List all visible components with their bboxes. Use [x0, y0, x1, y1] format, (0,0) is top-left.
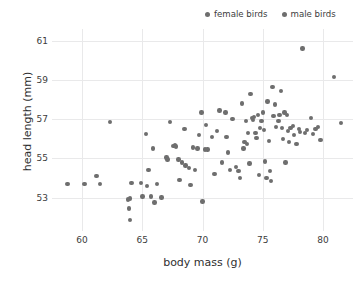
- data-point: [238, 176, 242, 180]
- data-point: [210, 135, 214, 139]
- data-point: [262, 128, 266, 132]
- data-point: [127, 206, 131, 210]
- data-point: [274, 125, 278, 129]
- data-point: [224, 135, 228, 139]
- gridline-vertical: [82, 29, 83, 231]
- data-point: [248, 92, 252, 96]
- chart-legend: female birdsmale birds: [205, 7, 357, 21]
- data-point: [215, 129, 219, 133]
- data-point: [246, 131, 250, 135]
- data-point: [257, 173, 261, 177]
- data-point: [108, 120, 112, 124]
- x-axis-title: body mass (g): [52, 256, 353, 269]
- data-point: [268, 169, 272, 173]
- data-point: [65, 182, 69, 186]
- data-point: [82, 182, 86, 186]
- data-point: [94, 174, 98, 178]
- data-point: [339, 121, 343, 125]
- data-point: [285, 113, 289, 117]
- data-point: [145, 184, 149, 188]
- legend-item-label: female birds: [214, 10, 268, 19]
- data-point: [193, 168, 197, 172]
- data-point: [316, 125, 320, 129]
- gridline-vertical: [142, 29, 143, 231]
- x-axis-tick-label: 75: [248, 236, 278, 245]
- data-point: [199, 110, 203, 114]
- data-point: [212, 172, 216, 176]
- data-point: [283, 160, 287, 164]
- data-point: [265, 99, 269, 103]
- data-point: [129, 181, 133, 185]
- legend-marker-dot-icon: [205, 12, 210, 17]
- data-point: [264, 176, 268, 180]
- data-point: [256, 113, 260, 117]
- data-point: [311, 132, 315, 136]
- data-point: [128, 218, 132, 222]
- data-point: [191, 145, 195, 149]
- data-point: [144, 132, 148, 136]
- legend-item[interactable]: male birds: [282, 10, 336, 19]
- data-point: [155, 182, 159, 186]
- data-point: [151, 146, 155, 150]
- data-point: [259, 119, 263, 123]
- data-point: [245, 142, 249, 146]
- x-axis-tick-label: 80: [308, 236, 338, 245]
- data-point: [300, 46, 304, 50]
- data-point: [168, 120, 172, 124]
- x-axis-tick-labels: 6065707580: [52, 236, 353, 250]
- data-point: [205, 147, 209, 151]
- data-point: [287, 140, 291, 144]
- data-point: [165, 157, 169, 161]
- data-point: [291, 124, 295, 128]
- data-point: [236, 169, 240, 173]
- data-point: [140, 194, 144, 198]
- data-point: [149, 194, 153, 198]
- data-point: [279, 89, 283, 93]
- gridline-vertical: [323, 29, 324, 231]
- x-axis-tick-label: 65: [127, 236, 157, 245]
- data-point: [230, 117, 234, 121]
- data-point: [253, 131, 257, 135]
- data-point: [98, 182, 102, 186]
- legend-marker-dot-icon: [282, 12, 287, 17]
- data-point: [267, 139, 271, 143]
- data-point: [280, 126, 284, 130]
- data-point: [159, 195, 163, 199]
- data-point: [220, 160, 224, 164]
- data-point: [128, 196, 132, 200]
- data-point: [277, 113, 281, 117]
- scatter-chart-figure: female birdsmale birds 5355575961 606570…: [0, 0, 362, 287]
- data-point: [269, 179, 273, 183]
- data-point: [292, 133, 296, 137]
- data-point: [263, 159, 267, 163]
- data-point: [247, 161, 251, 165]
- data-point: [332, 75, 336, 79]
- data-point: [273, 102, 277, 106]
- data-point: [204, 123, 208, 127]
- data-point: [174, 144, 178, 148]
- data-point: [228, 168, 232, 172]
- legend-item[interactable]: female birds: [205, 10, 268, 19]
- x-axis-tick-label: 60: [67, 236, 97, 245]
- plot-area: [52, 29, 353, 231]
- data-point: [217, 108, 221, 112]
- data-point: [177, 178, 181, 182]
- data-point: [182, 127, 186, 131]
- data-point: [270, 85, 274, 89]
- data-point: [244, 119, 248, 123]
- data-point: [254, 136, 258, 140]
- data-point: [188, 183, 192, 187]
- x-axis-tick-label: 70: [188, 236, 218, 245]
- data-point: [223, 110, 227, 114]
- data-point: [271, 114, 275, 118]
- data-point: [187, 166, 191, 170]
- data-point: [318, 138, 322, 142]
- legend-item-label: male birds: [291, 10, 336, 19]
- data-point: [281, 137, 285, 141]
- data-point: [146, 168, 150, 172]
- data-point: [226, 150, 230, 154]
- data-point: [240, 101, 244, 105]
- data-point: [197, 133, 201, 137]
- data-point: [152, 200, 156, 204]
- data-point: [195, 146, 199, 150]
